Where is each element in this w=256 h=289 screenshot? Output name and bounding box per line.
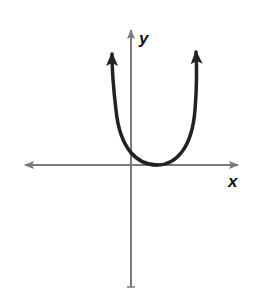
x-axis-label: x — [227, 172, 239, 191]
parabola-curve — [112, 54, 157, 165]
parabola-graph: y x — [0, 0, 256, 289]
parabola-curve-right — [157, 52, 197, 165]
y-axis-label: y — [138, 29, 150, 48]
